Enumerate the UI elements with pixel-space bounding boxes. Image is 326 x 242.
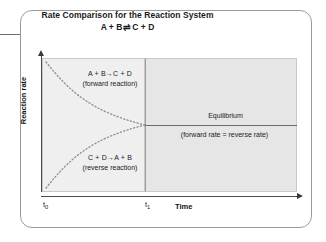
x-tick-t0-subscript: 0 xyxy=(45,204,48,210)
equilibrium-rates-caption: (forward rate = reverse rate) xyxy=(152,130,297,140)
forward-reaction-label: A + B→C + D (forward reaction) xyxy=(65,69,155,88)
x-axis-line xyxy=(41,196,299,197)
x-tick-label-t0: t0 xyxy=(43,200,48,210)
y-axis-line xyxy=(41,55,42,192)
figure-root: Rate Comparison for the Reaction System … xyxy=(0,0,326,242)
x-axis-title: Time xyxy=(175,202,192,211)
plot-area: A + B→C + D (forward reaction) C + D→A +… xyxy=(42,58,297,192)
forward-reaction-caption: (forward reaction) xyxy=(65,79,155,89)
equilibrium-arrow-icon: ⇌ xyxy=(122,22,132,32)
figure-title-line1: Rate Comparison for the Reaction System xyxy=(20,10,235,21)
x-tick-label-t1: t1 xyxy=(145,200,150,210)
equilibrium-label: Equilibrium xyxy=(158,111,293,121)
figure-title-equation: A + B⇌C + D xyxy=(20,21,235,33)
y-axis-title: Reaction rate xyxy=(19,66,28,136)
reverse-reaction-caption: (reverse reaction) xyxy=(65,163,155,173)
forward-reaction-equation: A + B→C + D xyxy=(65,69,155,79)
title-reactants: A + B xyxy=(101,22,123,32)
y-axis-arrow-icon xyxy=(38,50,44,56)
x-axis-arrow-icon xyxy=(297,193,303,199)
reverse-reaction-equation: C + D→A + B xyxy=(65,153,155,163)
figure-title: Rate Comparison for the Reaction System … xyxy=(20,10,235,33)
x-tick-t1-subscript: 1 xyxy=(147,204,150,210)
title-products: C + D xyxy=(132,22,154,32)
reverse-reaction-label: C + D→A + B (reverse reaction) xyxy=(65,153,155,172)
